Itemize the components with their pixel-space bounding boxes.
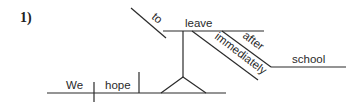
infinitive-marker-word: to — [150, 10, 165, 25]
figure-number: 1) — [20, 10, 32, 26]
sentence-diagram: 1) We hope to leave immediately after sc… — [0, 0, 364, 108]
subject-word: We — [66, 79, 83, 91]
verb-word: hope — [105, 79, 131, 91]
pedestal-triangle — [161, 77, 206, 93]
infinitive-verb-word: leave — [185, 17, 213, 29]
prepositional-object-word: school — [292, 53, 325, 65]
